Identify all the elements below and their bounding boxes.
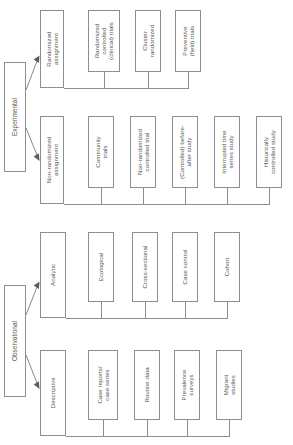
arrow-observational-to-analytic — [26, 282, 40, 316]
arrow-observational-to-descriptive — [26, 355, 40, 389]
study-design-flowchart: Experimental Randomized assignment Non-r… — [0, 0, 293, 445]
arrow-layer — [0, 0, 293, 445]
arrow-experimental-to-non-randomized-assignment — [26, 128, 40, 161]
arrow-experimental-to-randomized-assignment — [26, 56, 40, 91]
